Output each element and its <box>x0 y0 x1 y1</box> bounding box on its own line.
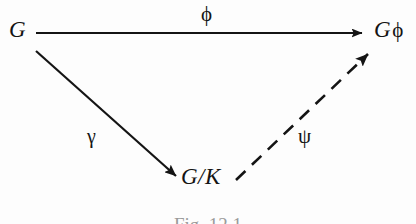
node-label-G: G <box>9 18 26 41</box>
phi-glyph-icon: ϕ <box>392 18 404 42</box>
figure-caption: Fig. 12.1 <box>0 214 416 224</box>
arrow-gamma <box>36 51 176 176</box>
node-label-G-mod-K: G/K <box>181 165 221 188</box>
node-label-G-phi-base: G <box>374 17 391 42</box>
arrow-label-psi: ψ <box>298 126 311 147</box>
arrow-psi <box>236 54 368 180</box>
arrow-label-phi: ϕ <box>201 4 212 25</box>
node-label-G-phi: Gϕ <box>374 18 404 41</box>
diagram-canvas <box>0 0 416 224</box>
arrow-label-gamma: γ <box>87 126 96 146</box>
figure-commutative-diagram: G Gϕ G/K ϕ γ ψ Fig. 12.1 <box>0 0 416 224</box>
